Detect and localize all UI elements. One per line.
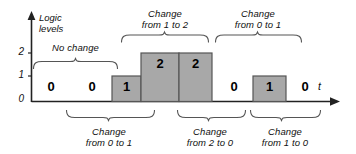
y-tick-1: 1 <box>12 69 24 80</box>
y-axis-label-line2: levels <box>39 23 63 34</box>
annotation-bottom-change-0-to-1: Change from 0 to 1 <box>65 126 153 148</box>
brace-top-no-change <box>34 59 118 70</box>
slot-value-6: 0 <box>218 79 250 94</box>
slot-value-4: 2 <box>141 56 179 71</box>
slot-value-2: 0 <box>74 79 110 94</box>
annotation-top-change-0-to-1-line2: from 0 to 1 <box>213 19 303 30</box>
logic-levels-diagram: Logic levels t 2 1 0 0 0 1 2 2 0 1 0 No … <box>0 0 356 154</box>
y-axis-label: Logic levels <box>39 12 63 34</box>
annotation-top-change-0-to-1: Change from 0 to 1 <box>213 8 303 30</box>
annotation-bottom-change-1-to-0: Change from 1 to 0 <box>241 126 329 148</box>
annotation-top-change-1-to-2: Change from 1 to 2 <box>120 8 210 30</box>
annotation-bottom-change-1-to-0-line2: from 1 to 0 <box>241 137 329 148</box>
annotation-bottom-change-0-to-1-line2: from 0 to 1 <box>65 137 153 148</box>
brace-top-change-1-to-2 <box>122 32 209 43</box>
slot-value-7: 1 <box>253 79 286 94</box>
y-axis-label-line1: Logic <box>39 12 63 23</box>
slot-value-8: 0 <box>290 79 320 94</box>
annotation-top-change-0-to-1-line1: Change <box>213 8 303 19</box>
brace-bottom-change-2-to-0 <box>178 110 246 121</box>
slot-value-3: 1 <box>112 79 141 94</box>
y-tick-2: 2 <box>12 46 24 57</box>
slot-value-1: 0 <box>33 79 69 94</box>
annotation-bottom-change-0-to-1-line1: Change <box>65 126 153 137</box>
y-tick-0: 0 <box>12 93 24 104</box>
annotation-top-change-1-to-2-line1: Change <box>120 8 210 19</box>
annotation-top-no-change: No change <box>36 42 116 53</box>
brace-top-change-0-to-1 <box>216 32 302 43</box>
brace-bottom-change-1-to-0 <box>251 110 321 121</box>
brace-bottom-change-0-to-1 <box>67 110 155 121</box>
annotation-top-no-change-line1: No change <box>36 42 116 53</box>
annotation-top-change-1-to-2-line2: from 1 to 2 <box>120 19 210 30</box>
annotation-bottom-change-1-to-0-line1: Change <box>241 126 329 137</box>
slot-value-5: 2 <box>179 56 212 71</box>
